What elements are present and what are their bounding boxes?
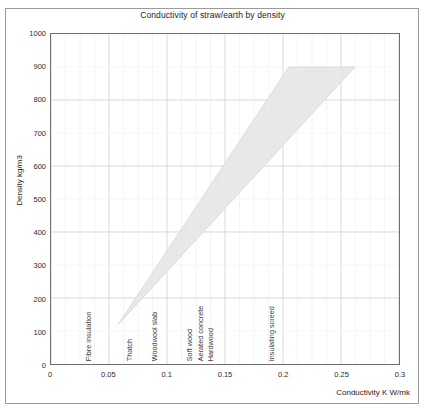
y-tick-label: 700 (2, 128, 46, 137)
x-tick-label: 0.2 (263, 370, 303, 379)
material-annotation: Insulating screed (268, 306, 275, 361)
x-tick-label: 0.25 (322, 370, 362, 379)
y-tick-label: 100 (2, 327, 46, 336)
y-axis-title: Density kg/m3 (15, 121, 24, 241)
y-tick-label: 800 (2, 95, 46, 104)
material-annotation: Thatch (125, 339, 132, 361)
chart-title: Conductivity of straw/earth by density (0, 10, 425, 20)
y-tick-label: 400 (2, 228, 46, 237)
x-axis-tick-labels: 00.050.10.150.20.250.3 (50, 370, 400, 384)
conductivity-density-band (51, 34, 399, 364)
y-tick-label: 0 (2, 361, 46, 370)
x-tick-label: 0.05 (88, 370, 128, 379)
y-tick-label: 500 (2, 195, 46, 204)
y-tick-label: 200 (2, 294, 46, 303)
plot-area: Fibre insulationThatchWoodwool slabSoft … (50, 33, 400, 365)
material-annotation: Fibre insulation (85, 312, 92, 361)
material-annotation: Aerated concrete (197, 305, 204, 361)
material-annotation: Hardwood (207, 328, 214, 361)
x-tick-label: 0 (30, 370, 70, 379)
x-tick-label: 0.3 (380, 370, 420, 379)
material-annotation: Woodwool slab (151, 312, 158, 361)
y-tick-label: 1000 (2, 29, 46, 38)
figure-container: Conductivity of straw/earth by density F… (0, 0, 425, 411)
y-tick-label: 900 (2, 62, 46, 71)
x-axis-title: Conductivity K W/mk (240, 388, 410, 397)
y-tick-label: 300 (2, 261, 46, 270)
x-tick-label: 0.15 (205, 370, 245, 379)
y-tick-label: 600 (2, 161, 46, 170)
x-tick-label: 0.1 (147, 370, 187, 379)
material-annotation: Soft wood (186, 329, 193, 361)
